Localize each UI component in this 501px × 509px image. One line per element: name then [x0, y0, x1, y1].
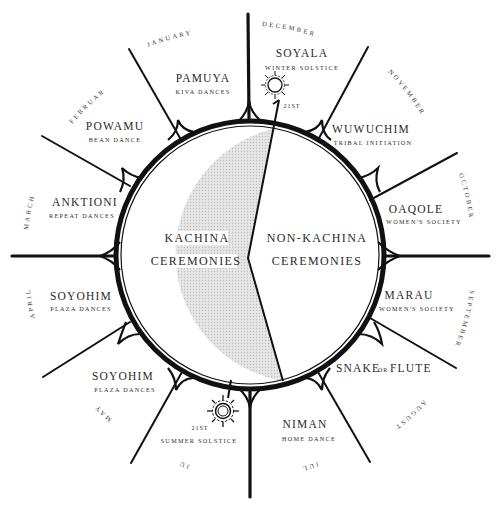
- non-kachina-ceremonies-label: CEREMONIES: [272, 254, 363, 268]
- ceremony-niman: NIMAN: [283, 418, 328, 430]
- ceremony-powamu: POWAMU: [86, 120, 144, 132]
- month-january: JANUARY: [146, 29, 193, 48]
- spoke-10: [42, 136, 130, 186]
- spoke-5: [318, 372, 370, 462]
- kachina-label: KACHINA: [164, 231, 229, 245]
- ceremony-anktioni: ANKTIONI: [52, 196, 118, 208]
- ceremony-soyohim-april-sub: PLAZA DANCES: [50, 305, 112, 312]
- ceremony-oaqole-sub: WOMEN'S SOCIETY: [386, 218, 462, 225]
- spokes: [12, 14, 489, 497]
- ceremony-niman-sub: HOME DANCE: [282, 435, 336, 442]
- ceremony-anktioni-sub: REPEAT DANCES: [49, 212, 115, 219]
- ceremony-soyala: SOYALA: [276, 47, 329, 59]
- summer-sun-icon: [207, 395, 239, 427]
- ceremony-pamuya: PAMUYA: [176, 72, 231, 84]
- ceremony-marau-sub: WOMEN'S SOCIETY: [379, 305, 455, 312]
- month-april: APRIL: [24, 288, 36, 320]
- ceremony-soyala-sub: WINTER SOLSTICE: [265, 64, 339, 71]
- ceremony-marau: MARAU: [385, 289, 434, 301]
- month-august: AUGUST: [393, 399, 428, 432]
- winter-sun-icon: [261, 71, 289, 99]
- month-october: OCTOBER: [458, 172, 475, 220]
- ceremony-snake-or: OR: [378, 367, 388, 373]
- ceremony-snake: SNAKE: [336, 362, 380, 374]
- spoke-8: [43, 322, 130, 377]
- month-march: MARCH: [22, 193, 36, 230]
- month-june: JUNE: [0, 0, 190, 471]
- ceremony-powamu-sub: BEAN DANCE: [89, 136, 142, 143]
- ceremony-oaqole: OAQOLE: [389, 203, 443, 215]
- month-february: FEBRUARY: [0, 0, 106, 125]
- non-kachina-label: NON-KACHINA: [267, 231, 368, 245]
- spoke-2: [370, 153, 457, 200]
- month-december: DECEMBER: [262, 20, 317, 38]
- summer-solstice-date: 21ST: [191, 425, 208, 431]
- month-november: NOVEMBER: [387, 68, 427, 117]
- kachina-ceremonies-label: CEREMONIES: [151, 254, 242, 268]
- winter-solstice-date: 21ST: [283, 103, 300, 109]
- month-may: MAY: [92, 403, 113, 423]
- ceremony-pamuya-sub: KIVA DANCES: [176, 88, 231, 95]
- ceremony-flute: FLUTE: [390, 362, 432, 374]
- ceremony-soyohim-april: SOYOHIM: [50, 290, 112, 302]
- ceremony-wuwuchim-sub: TRIBAL INITIATION: [334, 139, 413, 146]
- ceremony-wuwuchim: WUWUCHIM: [332, 123, 410, 135]
- summer-solstice-label: SUMMER SOLSTICE: [161, 437, 238, 444]
- ceremony-soyohim-may-sub: PLAZA DANCES: [94, 386, 156, 393]
- month-september: SEPTEMBER: [454, 290, 476, 349]
- hopi-ceremonial-calendar: KACHINA CEREMONIES NON-KACHINA CEREMONIE…: [0, 0, 501, 509]
- ceremony-soyohim-may: SOYOHIM: [92, 370, 154, 382]
